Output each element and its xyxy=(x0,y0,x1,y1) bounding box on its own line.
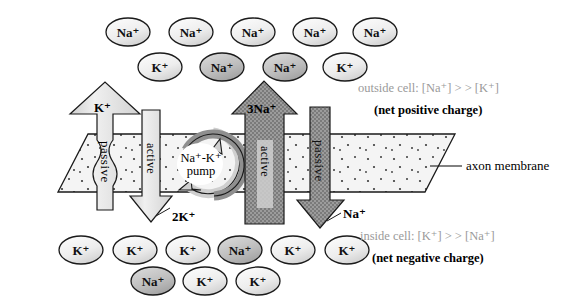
passive-label-left: passive xyxy=(98,141,113,183)
outside-concentration-label: outside cell: [Na⁺] > > [K⁺] xyxy=(358,80,499,96)
ion-label: K⁺ xyxy=(250,274,267,289)
arrow-k-active-tip-label: 2K⁺ xyxy=(172,209,195,225)
arrow-na-active-body-label: active xyxy=(258,146,272,177)
ion-label: K⁺ xyxy=(285,243,302,258)
ion-k: K⁺ xyxy=(59,236,103,264)
arrow-k-passive-head-label: K⁺ xyxy=(94,100,111,116)
ion-na: Na⁺ xyxy=(200,53,244,81)
inside-charge-label: (net negative charge) xyxy=(372,251,484,266)
ion-na: Na⁺ xyxy=(218,236,262,264)
ion-na: Na⁺ xyxy=(131,267,175,295)
ion-label: Na⁺ xyxy=(274,60,297,75)
ion-label: Na⁺ xyxy=(211,60,234,75)
outside-charge-label: (net positive charge) xyxy=(374,103,482,118)
arrow-na-passive-body-label: passive xyxy=(313,140,327,182)
ion-k: K⁺ xyxy=(138,53,182,81)
ion-label: Na⁺ xyxy=(242,25,265,40)
ion-na: Na⁺ xyxy=(353,18,397,46)
ion-na: Na⁺ xyxy=(293,18,337,46)
ion-na: Na⁺ xyxy=(263,53,307,81)
active-label-left: active xyxy=(144,143,158,174)
arrow-k-active-body-label: active xyxy=(144,143,158,174)
ion-label: K⁺ xyxy=(337,60,354,75)
figure-canvas: Na⁺Na⁺Na⁺Na⁺Na⁺K⁺Na⁺Na⁺K⁺K⁺K⁺K⁺Na⁺K⁺K⁺Na… xyxy=(0,0,562,306)
ion-label: Na⁺ xyxy=(180,25,203,40)
ion-label: K⁺ xyxy=(152,60,169,75)
ion-na: Na⁺ xyxy=(231,18,275,46)
ion-label: Na⁺ xyxy=(117,25,140,40)
ion-k: K⁺ xyxy=(113,236,157,264)
ion-label: K⁺ xyxy=(180,243,197,258)
ion-label: Na⁺ xyxy=(304,25,327,40)
pump-label: Na⁺-K⁺ pump xyxy=(176,152,226,178)
ion-label: K⁺ xyxy=(73,243,90,258)
ion-k: K⁺ xyxy=(271,236,315,264)
passive-label-right: passive xyxy=(312,140,327,182)
ion-label: K⁺ xyxy=(197,274,214,289)
ion-k: K⁺ xyxy=(236,267,280,295)
ion-label: K⁺ xyxy=(339,243,356,258)
active-label-right: active xyxy=(258,146,272,177)
arrow-na-passive-tip-label: Na⁺ xyxy=(343,206,366,222)
pump-label-line2: pump xyxy=(176,165,226,178)
ion-na: Na⁺ xyxy=(106,18,150,46)
inside-concentration-label: inside cell: [K⁺] > > [Na⁺] xyxy=(360,228,495,244)
ion-k: K⁺ xyxy=(323,53,367,81)
ion-label: Na⁺ xyxy=(142,274,165,289)
ion-label: Na⁺ xyxy=(229,243,252,258)
ion-k: K⁺ xyxy=(166,236,210,264)
ion-na: Na⁺ xyxy=(169,18,213,46)
axon-membrane-label: axon membrane xyxy=(466,158,549,174)
ion-label: Na⁺ xyxy=(364,25,387,40)
ion-k: K⁺ xyxy=(183,267,227,295)
arrow-na-active-head-label: 3Na⁺ xyxy=(247,101,276,117)
ion-label: K⁺ xyxy=(127,243,144,258)
arrow-k-passive-body-label: passive xyxy=(99,141,113,183)
